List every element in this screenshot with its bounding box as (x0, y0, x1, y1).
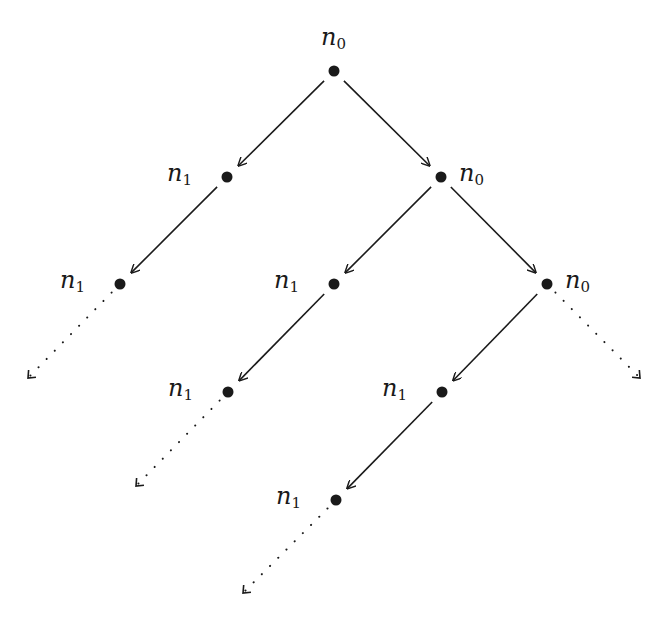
node-subscript: 1 (183, 386, 193, 404)
node-var: n (565, 266, 580, 294)
node-dot-l2b (329, 279, 340, 290)
node-dot-l1b (436, 172, 447, 183)
dotted-arrowhead-icon (28, 370, 36, 378)
node-subscript: 1 (289, 278, 299, 296)
edge-arrow-l1a-l2a (131, 187, 217, 273)
node-dot-l4a (331, 495, 342, 506)
node-label-l4a: n1 (276, 484, 301, 511)
dotted-edges-group (28, 293, 640, 593)
node-dot-l3a (223, 387, 234, 398)
node-var: n (321, 23, 336, 51)
node-var: n (168, 374, 183, 402)
nodes-group (115, 66, 553, 506)
dotted-arrowhead-icon (243, 585, 251, 593)
dotted-edge-l3a (136, 401, 220, 486)
node-var: n (60, 266, 75, 294)
node-label-l2b: n1 (274, 268, 299, 295)
node-subscript: 1 (182, 171, 192, 189)
edge-arrow-l1b-l2b (345, 187, 431, 273)
node-label-l1b: n0 (459, 161, 484, 188)
edge-arrow-root-l1b (344, 81, 430, 166)
dotted-edge-l2a (28, 293, 112, 378)
node-var: n (382, 374, 397, 402)
node-dot-l2a (115, 279, 126, 290)
node-dot-l1a (222, 172, 233, 183)
node-dot-l2c (542, 279, 553, 290)
node-subscript: 1 (291, 494, 301, 512)
edge-arrow-l2b-l3a (239, 294, 324, 381)
edge-arrow-l1b-l2c (451, 187, 536, 273)
node-subscript: 1 (397, 386, 407, 404)
node-label-l3b: n1 (382, 376, 407, 403)
tree-diagram (0, 0, 658, 625)
node-var: n (459, 159, 474, 187)
node-label-l2a: n1 (60, 268, 85, 295)
node-subscript: 0 (580, 278, 590, 296)
node-subscript: 1 (75, 278, 85, 296)
dotted-arrowhead-icon (632, 370, 640, 378)
node-label-l1a: n1 (167, 161, 192, 188)
node-label-root: n0 (321, 25, 346, 52)
dotted-arrowhead-icon (136, 478, 144, 486)
dotted-edge-l2c (555, 293, 640, 378)
edge-arrow-l3b-l4a (347, 402, 432, 489)
node-var: n (276, 482, 291, 510)
edge-arrow-root-l1a (238, 81, 324, 166)
node-var: n (167, 159, 182, 187)
dotted-edge-l4a (243, 508, 328, 593)
node-dot-root (329, 66, 340, 77)
node-dot-l3b (437, 387, 448, 398)
edge-arrow-l2c-l3b (453, 294, 537, 380)
node-subscript: 0 (336, 35, 346, 53)
node-label-l2c: n0 (565, 268, 590, 295)
node-label-l3a: n1 (168, 376, 193, 403)
node-var: n (274, 266, 289, 294)
node-subscript: 0 (474, 171, 484, 189)
